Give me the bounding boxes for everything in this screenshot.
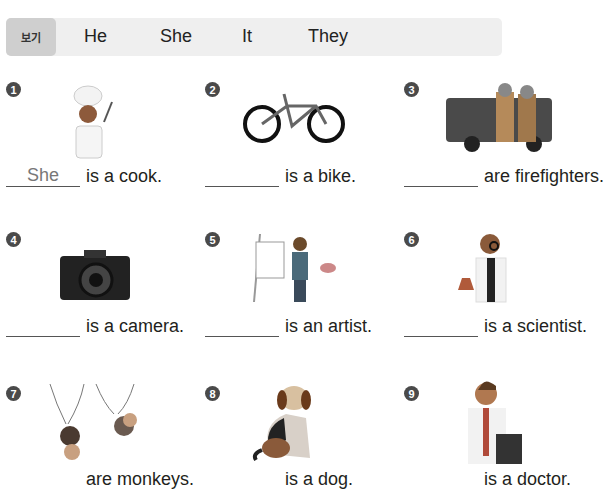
sentence-text: is an artist. bbox=[285, 316, 372, 337]
answer-blank[interactable] bbox=[205, 468, 279, 490]
sentence-text: is a dog. bbox=[285, 469, 353, 490]
item-number: 9 bbox=[404, 386, 419, 401]
cook-icon bbox=[60, 82, 120, 162]
sentence-5: is an artist. bbox=[205, 314, 372, 337]
item-number: 3 bbox=[404, 82, 419, 97]
item-number: 5 bbox=[205, 232, 220, 247]
sentence-text: is a cook. bbox=[86, 166, 162, 187]
item-number: 2 bbox=[205, 82, 220, 97]
doctor-icon bbox=[456, 380, 532, 466]
word-they: They bbox=[308, 26, 348, 47]
sentence-6: is a scientist. bbox=[404, 314, 587, 337]
sentence-text: is a scientist. bbox=[484, 316, 587, 337]
sentence-3: are firefighters. bbox=[404, 164, 604, 187]
answer-blank[interactable] bbox=[404, 164, 478, 187]
camera-icon bbox=[58, 250, 132, 302]
answer-blank[interactable] bbox=[404, 314, 478, 337]
word-it: It bbox=[242, 26, 252, 47]
sentence-8: is a dog. bbox=[205, 468, 353, 490]
answer-blank[interactable] bbox=[404, 468, 478, 490]
sentence-1: She is a cook. bbox=[6, 164, 162, 187]
answer-blank[interactable] bbox=[6, 314, 80, 337]
answer-blank[interactable] bbox=[205, 164, 279, 187]
word-she: She bbox=[160, 26, 192, 47]
item-number: 7 bbox=[6, 386, 21, 401]
word-bank-tag: 보기 bbox=[6, 18, 56, 56]
answer-blank[interactable] bbox=[6, 468, 80, 490]
monkeys-icon bbox=[44, 384, 144, 466]
word-bank: 보기 He She It They bbox=[6, 18, 502, 56]
sentence-text: are firefighters. bbox=[484, 166, 604, 187]
sentence-text: is a camera. bbox=[86, 316, 184, 337]
answer-blank[interactable]: She bbox=[6, 164, 80, 187]
scientist-icon bbox=[456, 230, 528, 304]
sentence-text: is a doctor. bbox=[484, 469, 571, 490]
sentence-text: is a bike. bbox=[285, 166, 356, 187]
sentence-7: are monkeys. bbox=[6, 468, 194, 490]
answer-blank[interactable] bbox=[205, 314, 279, 337]
sentence-text: are monkeys. bbox=[86, 469, 194, 490]
bike-icon bbox=[242, 86, 346, 148]
item-number: 6 bbox=[404, 232, 419, 247]
item-number: 8 bbox=[205, 386, 220, 401]
item-number: 1 bbox=[6, 82, 21, 97]
item-number: 4 bbox=[6, 232, 21, 247]
sentence-2: is a bike. bbox=[205, 164, 356, 187]
dog-icon bbox=[250, 384, 320, 466]
firefighters-icon bbox=[444, 82, 556, 158]
sentence-9: is a doctor. bbox=[404, 468, 571, 490]
word-he: He bbox=[84, 26, 107, 47]
artist-icon bbox=[250, 228, 340, 304]
sentence-4: is a camera. bbox=[6, 314, 184, 337]
